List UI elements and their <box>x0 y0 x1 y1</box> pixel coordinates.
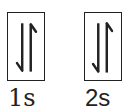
spin-up-arrow-icon <box>107 23 112 72</box>
orbital-2s: 2s <box>0 0 60 111</box>
orbital-label-2s: 2s <box>85 86 110 110</box>
electron-pair-icon <box>85 13 121 80</box>
spin-down-arrow-icon <box>93 23 98 71</box>
orbital-box-2s <box>84 12 122 81</box>
